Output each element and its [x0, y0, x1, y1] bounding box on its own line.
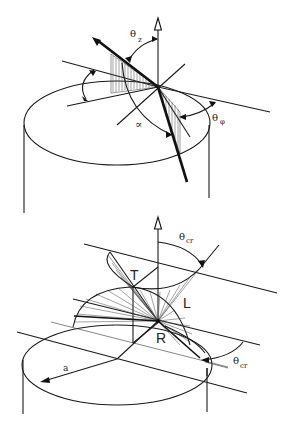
figure-top: θ z θ φ ∝: [24, 18, 270, 213]
top-bold-member-upper: [97, 40, 158, 87]
top-cylinder-ellipse: [24, 81, 210, 165]
bottom-cylinder: [22, 325, 212, 414]
theta-cr-top-arc: [158, 242, 202, 265]
theta-z-label: θ: [130, 28, 136, 39]
z-axis-arrow-icon: [155, 18, 162, 30]
theta-phi-subscript: φ: [220, 118, 225, 126]
bottom-center-point: [156, 319, 160, 323]
top-bold-arrow-icon: [92, 37, 101, 46]
diagram-canvas: θ z θ φ ∝: [0, 0, 291, 429]
theta-z-arc: [129, 39, 157, 60]
bottom-parallel-line-4: [17, 332, 247, 393]
label-T: T: [130, 267, 139, 283]
bottom-parallel-line-1: [84, 244, 277, 293]
top-hatched-region-left: [111, 54, 158, 93]
top-bold-member-lower: [158, 87, 187, 182]
bottom-cylinder-ellipse: [22, 325, 212, 405]
bottom-z-axis-arrow-icon: [155, 217, 162, 229]
theta-cr-top-subscript: cr: [186, 237, 194, 245]
bottom-parallel-line-2: [73, 299, 260, 345]
label-L: L: [183, 295, 191, 311]
theta-phi-label: θ: [212, 112, 218, 123]
label-a: a: [63, 363, 69, 373]
theta-cr-right-subscript: cr: [240, 362, 248, 370]
theta-z-subscript: z: [138, 36, 142, 44]
theta-z-arrow-end-icon: [152, 36, 158, 42]
alpha-arc: [122, 63, 172, 135]
theta-phi-arc: [181, 103, 215, 117]
top-cylinder: [24, 81, 210, 213]
theta-cr-right-label: θ: [233, 355, 239, 366]
label-R: R: [156, 330, 166, 346]
top-plane-line-lower: [67, 87, 158, 106]
theta-cr-top-label: θ: [179, 231, 185, 242]
radius-a-line: [44, 359, 117, 381]
theta-cr-right-leader: [205, 362, 228, 368]
T-surface-curve: [107, 245, 219, 289]
figure-bottom: θ cr θ cr T L R a: [17, 217, 277, 414]
alpha-label: ∝: [135, 118, 142, 131]
radius-a-arrow-icon: [40, 377, 50, 383]
top-plane-line-left: [62, 61, 158, 87]
bottom-parallel-line-3: [51, 322, 228, 367]
top-z-axis: [155, 18, 162, 88]
